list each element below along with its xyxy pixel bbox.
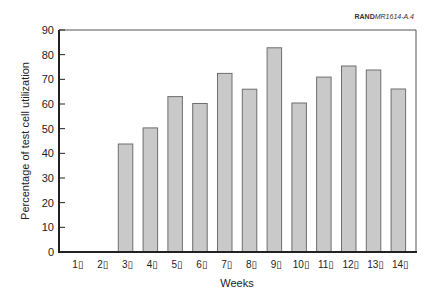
y-tick-label: 60 (42, 98, 54, 110)
bar-week-13 (366, 70, 381, 252)
x-tick-label: 4▯ (147, 259, 158, 270)
y-tick-label: 50 (42, 123, 54, 135)
x-tick-label: 12▯ (342, 259, 359, 270)
y-tick-label: 40 (42, 147, 54, 159)
bar-week-5 (168, 97, 183, 252)
y-tick-label: 0 (48, 246, 54, 258)
y-tick-label: 90 (42, 24, 54, 36)
x-tick-label: 10▯ (293, 259, 310, 270)
plot-frame (59, 30, 416, 252)
x-axis: 1▯2▯3▯4▯5▯6▯7▯8▯9▯10▯11▯12▯13▯14▯ (58, 252, 417, 270)
x-tick-label: 3▯ (122, 259, 133, 270)
bars (118, 48, 405, 252)
x-tick-label: 6▯ (196, 259, 207, 270)
y-axis-label: Percentage of test cell utilization (19, 62, 31, 220)
x-tick-label: 8▯ (246, 259, 257, 270)
bar-week-8 (242, 89, 256, 252)
bar-chart: 0102030405060708090 1▯2▯3▯4▯5▯6▯7▯8▯9▯10… (0, 0, 439, 303)
bar-week-4 (143, 128, 158, 252)
bar-week-3 (118, 144, 133, 252)
y-tick-label: 70 (42, 73, 54, 85)
x-tick-label: 9▯ (271, 259, 282, 270)
bar-week-14 (391, 89, 406, 252)
bar-week-7 (218, 73, 233, 252)
y-tick-label: 20 (42, 197, 54, 209)
x-tick-label: 7▯ (221, 259, 232, 270)
y-tick-label: 30 (42, 172, 54, 184)
x-tick-label: 14▯ (392, 259, 409, 270)
bar-week-9 (267, 48, 282, 252)
x-tick-label: 13▯ (367, 259, 384, 270)
y-axis: 0102030405060708090 (42, 24, 65, 258)
bar-week-12 (342, 66, 357, 252)
x-tick-label: 11▯ (318, 259, 334, 270)
x-tick-label: 5▯ (172, 259, 183, 270)
y-tick-label: 10 (42, 221, 54, 233)
x-tick-label: 2▯ (97, 259, 108, 270)
x-axis-label: Weeks (220, 277, 254, 289)
x-tick-label: 1▯ (72, 259, 83, 270)
bar-week-10 (292, 103, 307, 252)
bar-week-6 (193, 104, 208, 253)
y-tick-label: 80 (42, 49, 54, 61)
bar-week-11 (317, 77, 332, 252)
